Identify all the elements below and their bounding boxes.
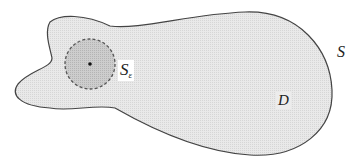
label-s-epsilon: Sε [118, 60, 134, 81]
label-s-epsilon-subscript: ε [129, 70, 133, 80]
label-s-epsilon-main: S [120, 60, 129, 79]
diagram-canvas [0, 0, 354, 166]
center-point-dot [88, 62, 92, 66]
label-boundary-s: S [337, 44, 345, 60]
label-region-d: D [276, 92, 291, 109]
region-d-boundary-s [15, 12, 332, 155]
